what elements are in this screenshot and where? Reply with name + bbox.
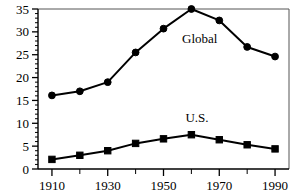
x-tick-label: 1910 [39,178,65,193]
y-tick-label: 30 [16,24,29,39]
data-point-marker [272,53,279,60]
data-point-marker [188,6,195,13]
chart-canvas: 0510152025303519101930195019701990Global… [0,0,298,194]
y-tick-label: 35 [16,2,29,17]
data-point-marker [49,156,55,162]
data-point-marker [77,152,83,158]
y-tick-label: 15 [16,93,29,108]
data-point-marker [216,137,222,143]
y-tick-label: 0 [23,162,30,177]
data-point-marker [49,92,56,99]
data-point-marker [216,17,223,24]
data-point-marker [132,140,138,146]
data-point-marker [105,148,111,154]
data-point-marker [160,25,167,32]
x-tick-label: 1970 [206,178,232,193]
x-tick-label: 1950 [151,178,177,193]
data-point-marker [244,44,251,51]
x-tick-label: 1930 [95,178,121,193]
series-label-us: U.S. [185,110,208,125]
data-point-marker [272,146,278,152]
data-point-marker [132,49,139,56]
data-point-marker [188,132,194,138]
data-point-marker [76,88,83,95]
y-tick-label: 20 [16,70,29,85]
series-line-global [52,9,275,95]
x-tick-label: 1990 [262,178,288,193]
data-point-marker [160,136,166,142]
data-point-marker [244,142,250,148]
data-point-marker [104,79,111,86]
series-label-global: Global [182,31,218,46]
y-tick-label: 10 [16,116,29,131]
y-tick-label: 25 [16,47,29,62]
y-tick-label: 5 [23,139,30,154]
line-chart: 0510152025303519101930195019701990Global… [0,0,298,194]
